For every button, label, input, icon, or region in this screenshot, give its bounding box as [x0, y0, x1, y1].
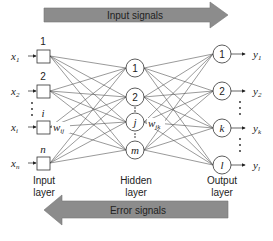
- ellipsis-dots: [31, 102, 33, 116]
- svg-text:y1: y1: [252, 48, 261, 62]
- input-layer-label: Input: [33, 175, 55, 186]
- svg-text:layer: layer: [211, 187, 233, 198]
- weight-label-wij: wij: [52, 121, 70, 135]
- output-node: l yl: [213, 156, 260, 174]
- input-node: n xn: [10, 143, 50, 171]
- input-node: 1 x1: [10, 36, 50, 64]
- input-layer: 1 x1 2 x2 i xi n xn: [10, 36, 70, 198]
- hidden-layer-label: Hidden: [120, 175, 152, 186]
- output-layer: 1 y1 2 y2 k yk l yl Output layer: [207, 45, 262, 198]
- svg-text:layer: layer: [33, 187, 55, 198]
- svg-text:x1: x1: [10, 50, 19, 64]
- hidden-layer: 1 2 j m wjk Hidden layer: [120, 59, 165, 198]
- output-layer-label: Output: [207, 175, 237, 186]
- weight-label-wjk: wjk: [147, 117, 165, 131]
- svg-text:x2: x2: [10, 85, 20, 99]
- output-node: 2 y2: [213, 82, 262, 100]
- hidden-output-connections: [144, 54, 213, 165]
- hidden-node: j: [126, 113, 144, 131]
- error-signals-arrow: Error signals: [44, 195, 228, 225]
- output-node: k yk: [213, 119, 262, 137]
- svg-text:yl: yl: [252, 159, 260, 173]
- error-signals-label: Error signals: [110, 205, 166, 216]
- svg-text:y2: y2: [252, 85, 262, 99]
- svg-text:m: m: [131, 144, 139, 156]
- input-signals-label: Input signals: [107, 10, 163, 21]
- svg-text:l: l: [220, 159, 223, 171]
- neural-network-diagram: Input signals Error signals 1 x1 2: [0, 0, 273, 241]
- ellipsis-dots: [239, 138, 241, 152]
- svg-text:2: 2: [132, 92, 138, 103]
- input-node: 2 x2: [10, 71, 50, 99]
- input-node: i xi: [10, 107, 50, 135]
- svg-text:1: 1: [40, 36, 46, 47]
- hidden-node: 1: [126, 59, 144, 77]
- hidden-node: 2: [126, 88, 144, 106]
- svg-text:yk: yk: [252, 122, 262, 136]
- svg-text:n: n: [40, 143, 46, 155]
- svg-text:2: 2: [219, 86, 225, 97]
- input-hidden-connections: [50, 56, 126, 163]
- svg-text:i: i: [41, 107, 44, 119]
- input-signals-arrow: Input signals: [44, 2, 228, 28]
- ellipsis-dots: [134, 133, 136, 138]
- svg-text:1: 1: [132, 63, 138, 74]
- svg-text:xn: xn: [10, 157, 20, 171]
- output-node: 1 y1: [213, 45, 261, 63]
- svg-text:2: 2: [40, 71, 46, 82]
- svg-text:layer: layer: [125, 187, 147, 198]
- svg-text:xi: xi: [10, 121, 18, 135]
- ellipsis-dots: [239, 101, 241, 115]
- svg-text:1: 1: [219, 49, 225, 60]
- hidden-node: m: [126, 141, 144, 159]
- ellipsis-dots: [134, 107, 136, 112]
